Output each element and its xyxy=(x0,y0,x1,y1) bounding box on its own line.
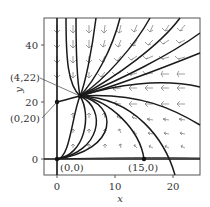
phase-portrait: 0 10 20 0 20 40 x y (4,22) (0,20) (0,0) … xyxy=(0,0,210,207)
x-axis-label: x xyxy=(117,193,123,204)
y-axis-label: y xyxy=(13,87,24,94)
label-eq-0-20: (0,20) xyxy=(10,113,40,124)
arrows-left xyxy=(113,85,185,107)
tick-x-10: 10 xyxy=(109,181,122,192)
label-eq-0-0: (0,0) xyxy=(60,162,84,173)
tick-y-0: 0 xyxy=(32,154,38,165)
label-eq-4-22: (4,22) xyxy=(10,72,40,83)
equilibrium-0-0 xyxy=(55,157,59,161)
tick-x-0: 0 xyxy=(54,181,60,192)
label-eq-15-0: (15,0) xyxy=(128,162,158,173)
tick-x-20: 20 xyxy=(167,181,180,192)
tick-y-20: 20 xyxy=(25,97,38,108)
equilibrium-15-0 xyxy=(142,157,146,161)
arrows-down xyxy=(54,25,185,78)
tick-y-40: 40 xyxy=(25,40,38,51)
